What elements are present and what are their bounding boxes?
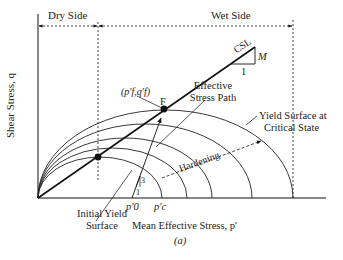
- pc-tick-label: p'c: [154, 201, 166, 212]
- dry-side-label: Dry Side: [48, 10, 87, 21]
- stress-path-label-1: Effective: [178, 80, 248, 91]
- stress-path-slope-triangle: [136, 176, 140, 187]
- y-axis-label: Shear Stress, q: [5, 73, 16, 138]
- critical-yield-label-1: Yield Surface at: [259, 110, 327, 121]
- csl-run-1: 1: [241, 66, 246, 77]
- critical-yield-label-2: Critical State: [264, 122, 319, 133]
- stress-path-label-2: Stress Path: [178, 92, 248, 103]
- initial-yield-point: [95, 154, 102, 161]
- initial-yield-label-2: Surface: [62, 220, 142, 231]
- wet-side-label: Wet Side: [211, 10, 251, 21]
- critical-surface-leader: [246, 116, 257, 125]
- fpoint-leader: [137, 96, 162, 108]
- yield-surfaces: [38, 110, 293, 198]
- failure-point-label: F: [160, 96, 166, 107]
- figure-caption: (a): [174, 235, 186, 246]
- x-axis-label: Mean Effective Stress, p': [132, 220, 237, 231]
- yield-surface-2: [38, 148, 187, 198]
- failure-coord-label: (p'f,q'f): [121, 86, 150, 97]
- csl-line: [38, 47, 255, 198]
- stress-path-run: 1: [136, 187, 140, 198]
- stress-path-rise: 3: [141, 175, 145, 186]
- initial-yield-label-1: Initial Yield: [62, 208, 142, 219]
- csl-slope-m: M: [258, 51, 267, 62]
